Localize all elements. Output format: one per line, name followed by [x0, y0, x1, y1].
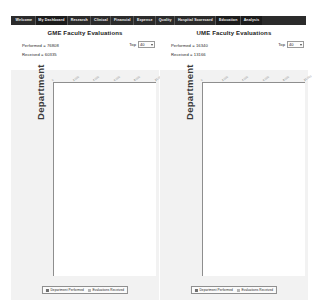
chevron-down-icon [300, 44, 302, 46]
nav-item-clinical[interactable]: Clinical [90, 16, 110, 25]
panel-meta-gme: Performed = 76808 Received = 60335 Top 4… [11, 41, 159, 63]
plot-axis-area-gme: 02,0004,0006,0008,00010,000 [53, 74, 156, 276]
chart-legend-ume: Department PerformedEvaluations Received [191, 286, 277, 294]
legend-swatch-icon [46, 289, 49, 292]
chart-gme[interactable]: Department 02,0004,0006,0008,00010,000 D… [11, 70, 159, 300]
panel-ume: UME Faculty Evaluations Performed = 1634… [160, 28, 308, 300]
nav-item-hospital-scorecard[interactable]: Hospital Scorecard [174, 16, 215, 25]
panel-gme: GME Faculty Evaluations Performed = 7680… [11, 28, 159, 300]
x-tick-label: 2,000 [71, 75, 79, 82]
legend-label: Department Performed [199, 288, 232, 292]
nav-item-research[interactable]: Research [67, 16, 90, 25]
page-title-ume: UME Faculty Evaluations [160, 28, 308, 38]
top-n-value-gme: 40 [140, 41, 144, 48]
main-navigation: WelcomeMy DashboardResearchClinicalFinan… [11, 16, 306, 25]
x-tick-label: 4,000 [92, 75, 100, 82]
plot-axis-area-ume: 02,0004,0006,0008,00010,000 [202, 74, 305, 276]
x-axis-ticks-ume: 02,0004,0006,0008,00010,000 [202, 74, 305, 82]
nav-item-welcome[interactable]: Welcome [13, 16, 35, 25]
nav-item-quality[interactable]: Quality [155, 16, 174, 25]
legend-label: Evaluations Received [241, 288, 273, 292]
plot-canvas-ume [202, 83, 305, 276]
legend-entry[interactable]: Department Performed [46, 288, 84, 292]
chevron-down-icon [151, 44, 153, 46]
x-tick-label: 10,000 [303, 74, 312, 82]
nav-item-financial[interactable]: Financial [110, 16, 133, 25]
page-title-gme: GME Faculty Evaluations [11, 28, 159, 38]
x-tick-label: 6,000 [262, 75, 270, 82]
app-root: WelcomeMy DashboardResearchClinicalFinan… [0, 0, 316, 306]
legend-swatch-icon [88, 289, 91, 292]
legend-entry[interactable]: Evaluations Received [88, 288, 124, 292]
x-axis-ticks-gme: 02,0004,0006,0008,00010,000 [53, 74, 156, 82]
x-tick-label: 2,000 [220, 75, 228, 82]
plot-canvas-gme [53, 83, 156, 276]
nav-item-expense[interactable]: Expense [133, 16, 155, 25]
y-axis-label-ume: Department [184, 30, 196, 120]
x-tick-label: 8,000 [282, 75, 290, 82]
top-n-label-ume: Top [278, 42, 285, 47]
top-n-control-gme: Top 40 [129, 41, 155, 48]
chart-ume[interactable]: Department 02,0004,0006,0008,00010,000 D… [160, 70, 308, 300]
panel-meta-ume: Performed = 16340 Received = 13166 Top 4… [160, 41, 308, 63]
legend-label: Department Performed [50, 288, 83, 292]
legend-label: Evaluations Received [92, 288, 124, 292]
top-n-control-ume: Top 40 [278, 41, 304, 48]
x-tick-label: 6,000 [113, 75, 121, 82]
top-n-select-gme[interactable]: 40 [138, 41, 155, 48]
nav-item-education[interactable]: Education [215, 16, 240, 25]
x-tick-label: 8,000 [133, 75, 141, 82]
legend-entry[interactable]: Evaluations Received [237, 288, 273, 292]
top-n-value-ume: 40 [289, 41, 293, 48]
y-axis-label-gme: Department [35, 30, 47, 120]
bar-series-gme [55, 85, 156, 276]
top-n-select-ume[interactable]: 40 [287, 41, 304, 48]
nav-item-analysis[interactable]: Analysis [240, 16, 262, 25]
bar-series-ume [204, 85, 305, 276]
legend-entry[interactable]: Department Performed [195, 288, 233, 292]
chart-legend-gme: Department PerformedEvaluations Received [42, 286, 128, 294]
x-tick-label: 4,000 [241, 75, 249, 82]
nav-item-my-dashboard[interactable]: My Dashboard [35, 16, 67, 25]
legend-swatch-icon [195, 289, 198, 292]
legend-swatch-icon [237, 289, 240, 292]
top-n-label-gme: Top [129, 42, 136, 47]
